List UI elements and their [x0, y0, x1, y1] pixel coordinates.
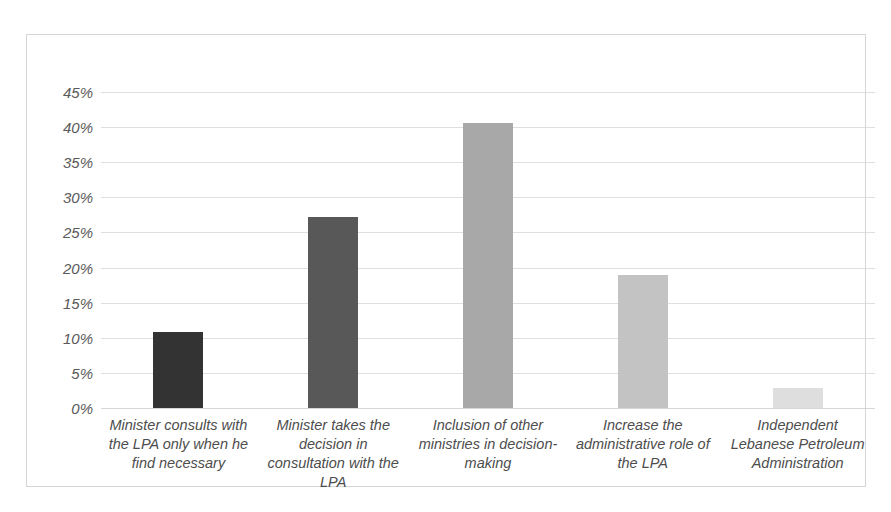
x-axis-category-label: Minister consults with the LPA only when… — [101, 416, 256, 512]
bar — [153, 332, 203, 408]
plot-area — [101, 92, 875, 408]
bar-chart-figure: 45%40%35%30%25%20%15%10%5%0% Minister co… — [0, 0, 891, 512]
y-axis-tick-label: 30% — [41, 190, 93, 205]
bar — [618, 275, 668, 408]
x-axis-category-label: Inclusion of other ministries in decisio… — [411, 416, 566, 512]
y-axis-tick-label: 35% — [41, 155, 93, 170]
x-axis-category-label: Minister takes the decision in consultat… — [256, 416, 411, 512]
y-axis-tick-label: 45% — [41, 85, 93, 100]
y-axis-tick-label: 20% — [41, 260, 93, 275]
x-axis: Minister consults with the LPA only when… — [101, 416, 875, 512]
chart-frame: 45%40%35%30%25%20%15%10%5%0% Minister co… — [26, 34, 866, 487]
x-axis-category-label: Independent Lebanese Petroleum Administr… — [720, 416, 875, 512]
gridline — [101, 92, 875, 93]
y-axis-tick-label: 5% — [41, 365, 93, 380]
bar — [773, 388, 823, 408]
y-axis-tick-label: 0% — [41, 401, 93, 416]
bar — [463, 123, 513, 408]
bar — [308, 217, 358, 408]
x-axis-category-label: Increase the administrative role of the … — [565, 416, 720, 512]
y-axis-tick-label: 40% — [41, 120, 93, 135]
y-axis-tick-label: 10% — [41, 330, 93, 345]
y-axis-tick-label: 15% — [41, 295, 93, 310]
y-axis: 45%40%35%30%25%20%15%10%5%0% — [35, 92, 93, 408]
gridline — [101, 408, 875, 409]
y-axis-tick-label: 25% — [41, 225, 93, 240]
